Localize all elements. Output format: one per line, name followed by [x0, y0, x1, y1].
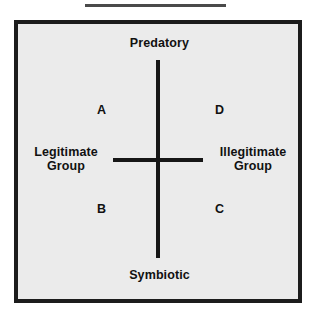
- quadrant-label-d: D: [215, 103, 224, 117]
- axis-label-legitimate-group-line2: Group: [22, 159, 110, 173]
- quadrant-label-b: B: [97, 202, 106, 216]
- axis-label-illegitimate-group: Illegitimate Group: [206, 145, 300, 173]
- axis-label-legitimate-group-line1: Legitimate: [34, 145, 98, 159]
- axis-label-illegitimate-group-line2: Group: [206, 159, 300, 173]
- top-divider-rule: [85, 4, 226, 7]
- axis-label-legitimate-group: Legitimate Group: [22, 145, 110, 173]
- quadrant-label-a: A: [97, 103, 106, 117]
- quadrant-label-c: C: [215, 202, 224, 216]
- quadrant-diagram-figure: Predatory Symbiotic Legitimate Group Ill…: [0, 0, 319, 317]
- axis-label-symbiotic: Symbiotic: [0, 268, 319, 282]
- axis-label-predatory: Predatory: [0, 36, 319, 50]
- axis-label-illegitimate-group-line1: Illegitimate: [220, 145, 287, 159]
- horizontal-axis-line: [113, 158, 203, 162]
